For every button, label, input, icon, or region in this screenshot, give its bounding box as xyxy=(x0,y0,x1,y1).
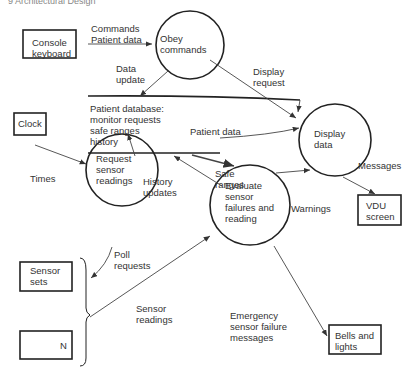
clock-label: Clock xyxy=(18,118,42,129)
flow-messages: Messages xyxy=(358,160,401,171)
flow-display-request: Display request xyxy=(253,66,285,88)
flow-emergency: Emergency sensor failure messages xyxy=(230,310,287,343)
sensor-sets-label: Sensor sets xyxy=(30,265,60,287)
flow-sensor-readings: Sensor readings xyxy=(136,303,172,325)
flow-history-updates: History updates xyxy=(143,176,177,198)
bells-lights-label: Bells and lights xyxy=(335,330,374,352)
sensor-n-label: N xyxy=(60,340,67,351)
request-sensor-label: Request sensor readings xyxy=(96,153,132,186)
flow-commands: Commands Patient data xyxy=(91,23,142,45)
patient-database-label: Patient database: monitor requests safe … xyxy=(90,103,164,147)
obey-commands-label: Obey commands xyxy=(160,33,206,55)
console-keyboard-label: Console keyboard xyxy=(32,37,71,59)
flow-times: Times xyxy=(30,173,56,184)
display-data-label: Display data xyxy=(314,128,345,150)
vdu-screen-label: VDU screen xyxy=(366,200,395,222)
flow-warnings: Warnings xyxy=(291,203,331,214)
flow-data-update: Data update xyxy=(116,63,145,85)
flow-safe-ranges: Safe ranges xyxy=(215,168,244,190)
flow-patient-data: Patient data xyxy=(190,126,241,137)
flow-poll-requests: Poll requests xyxy=(114,249,150,271)
